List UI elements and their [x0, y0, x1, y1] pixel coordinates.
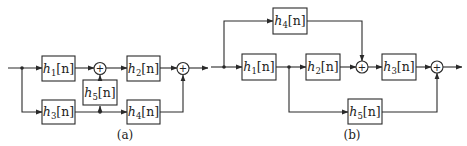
svg-text:h2[n]: h2[n]	[307, 59, 338, 76]
svg-text:h5[n]: h5[n]	[349, 104, 380, 121]
block-h5: h5[n]	[83, 80, 117, 105]
svg-text:h4[n]: h4[n]	[128, 104, 159, 121]
branch-to-h3	[22, 68, 42, 112]
adder-1: +	[356, 61, 368, 73]
svg-text:+: +	[96, 63, 104, 74]
block-h2: h2[n]	[127, 56, 160, 81]
svg-text:h1[n]: h1[n]	[43, 61, 74, 78]
svg-text:+: +	[433, 62, 441, 73]
block-h1: h1[n]	[42, 56, 75, 81]
svg-text:h3[n]: h3[n]	[383, 59, 414, 76]
svg-text:+: +	[179, 63, 187, 74]
block-h4: h4[n]	[127, 100, 160, 124]
svg-text:h5[n]: h5[n]	[84, 85, 115, 102]
svg-text:h2[n]: h2[n]	[128, 61, 159, 78]
caption-a: (a)	[117, 128, 134, 142]
adder-1: +	[94, 63, 106, 75]
block-h4: h4[n]	[273, 8, 307, 34]
adder-2: +	[177, 63, 189, 75]
caption-b: (b)	[343, 128, 360, 142]
diagram-a: h1[n] + h2[n] + h5[n] h3[	[8, 56, 208, 142]
svg-text:+: +	[358, 62, 366, 73]
svg-text:h3[n]: h3[n]	[43, 104, 74, 121]
diagram-b: h4[n] h1[n] h2[n] + h3[n]	[211, 8, 462, 142]
block-h5: h5[n]	[348, 99, 382, 124]
svg-text:h4[n]: h4[n]	[274, 13, 305, 30]
adder-2: +	[431, 61, 443, 73]
block-h1: h1[n]	[242, 54, 276, 80]
block-h2: h2[n]	[306, 54, 340, 80]
block-h3: h3[n]	[382, 54, 416, 80]
block-h3: h3[n]	[42, 100, 75, 124]
svg-text:h1[n]: h1[n]	[243, 59, 274, 76]
h4-to-adder2	[160, 75, 183, 112]
